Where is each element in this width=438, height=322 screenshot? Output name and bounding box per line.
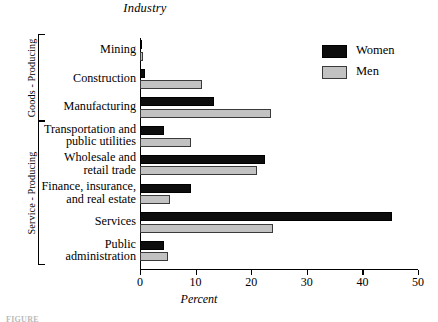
bar-women-manufacturing <box>140 97 214 106</box>
bar-women-mining <box>140 40 142 49</box>
bar-women-wholesale-and-retail-trade <box>140 155 265 164</box>
x-tick-label-20: 20 <box>231 275 271 290</box>
bar-men-construction <box>140 80 202 89</box>
bar-men-finance-insurance-and-real-estate <box>140 195 170 204</box>
bar-women-services <box>140 212 392 221</box>
category-labels: MiningConstructionManufacturingTransport… <box>0 0 136 322</box>
x-tick-label-40: 40 <box>342 275 382 290</box>
industry-bar-chart: Industry 01020304050 Percent MiningConst… <box>0 0 438 322</box>
legend-label-men: Men <box>356 64 379 79</box>
gray-swatch-icon <box>322 66 347 79</box>
bar-men-services <box>140 224 273 233</box>
bar-men-transportation-and-public-utilities <box>140 138 191 147</box>
bar-men-public-administration <box>140 252 168 261</box>
group-bracket-goods-producing <box>38 34 45 122</box>
x-axis-label: Percent <box>119 292 279 307</box>
x-tick-label-30: 30 <box>287 275 327 290</box>
figure-caption-fragment: FIGURE <box>6 315 39 322</box>
bar-men-mining <box>140 52 143 61</box>
category-label-transportation-and: Transportation andpublic utilities <box>6 123 136 148</box>
x-tick-label-10: 10 <box>176 275 216 290</box>
group-label-service-producing: Service - Producing <box>25 148 39 238</box>
bar-women-public-administration <box>140 241 164 250</box>
black-swatch-icon <box>322 45 347 58</box>
x-tick-label-50: 50 <box>398 275 438 290</box>
bar-men-manufacturing <box>140 109 271 118</box>
bar-men-wholesale-and-retail-trade <box>140 166 257 175</box>
bar-women-construction <box>140 69 145 78</box>
x-axis-line <box>140 269 418 270</box>
group-bracket-service-producing <box>38 120 45 265</box>
legend-label-women: Women <box>356 43 395 58</box>
bar-women-finance-insurance-and-real-estate <box>140 184 191 193</box>
group-label-goods-producing: Goods - Producing <box>25 33 39 123</box>
category-label-public: Publicadministration <box>6 238 136 263</box>
bar-women-transportation-and-public-utilities <box>140 126 164 135</box>
